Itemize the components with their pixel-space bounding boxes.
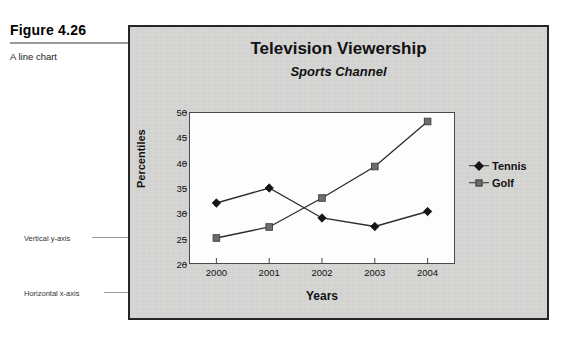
- chart-subtitle: Sports Channel: [130, 64, 547, 79]
- annotation-horizontal-x-axis: Horizontal x-axis: [24, 288, 79, 298]
- data-point-golf: [424, 118, 431, 125]
- x-tick-label: 2002: [311, 267, 332, 278]
- square-marker: [469, 177, 489, 189]
- x-tick-label: 2001: [259, 267, 280, 278]
- x-tick-label: 2004: [417, 267, 438, 278]
- y-axis-ticks: 20253035404550: [158, 112, 187, 264]
- y-tick-mark: [182, 264, 187, 265]
- plot-series-svg: [190, 113, 454, 263]
- x-axis-tick-labels: 20002001200220032004: [189, 267, 455, 283]
- x-axis-title: Years: [189, 289, 455, 303]
- data-point-tennis: [423, 207, 431, 215]
- data-point-tennis: [212, 199, 220, 207]
- legend-item-tennis[interactable]: Tennis: [469, 157, 541, 174]
- data-point-golf: [266, 224, 273, 231]
- chart-title: Television Viewership: [130, 39, 547, 59]
- legend-label: Golf: [492, 177, 514, 189]
- data-point-tennis: [265, 184, 273, 192]
- figure-label: Figure 4.26: [10, 22, 128, 42]
- plot-area: [189, 112, 455, 264]
- caption-divider: [10, 42, 128, 44]
- legend-label: Tennis: [492, 160, 527, 172]
- y-tick-mark: [182, 188, 187, 189]
- y-tick-mark: [182, 137, 187, 138]
- x-tick-label: 2003: [364, 267, 385, 278]
- y-tick-mark: [182, 213, 187, 214]
- figure-subcaption: A line chart: [10, 51, 128, 62]
- y-tick-mark: [182, 163, 187, 164]
- annotation-vertical-y-axis: Vertical y-axis: [24, 233, 70, 243]
- data-point-golf: [372, 163, 379, 170]
- legend-marker: [476, 179, 483, 186]
- data-point-golf: [319, 195, 326, 202]
- legend-marker: [474, 161, 484, 171]
- data-point-golf: [213, 235, 220, 242]
- y-tick-mark: [182, 239, 187, 240]
- data-point-tennis: [371, 222, 379, 230]
- x-tick-label: 2000: [206, 267, 227, 278]
- chart-legend: TennisGolf: [469, 157, 541, 191]
- legend-item-golf[interactable]: Golf: [469, 174, 541, 191]
- chart-panel: Television Viewership Sports Channel Per…: [128, 25, 549, 320]
- annotation-vertical-y-axis-label: Vertical y-axis: [24, 234, 70, 243]
- diamond-marker: [469, 160, 489, 172]
- annotation-horizontal-x-axis-label: Horizontal x-axis: [24, 289, 79, 298]
- y-tick-mark: [182, 112, 187, 113]
- y-axis-title: Percentiles: [135, 129, 147, 188]
- data-point-tennis: [318, 214, 326, 222]
- figure-caption: Figure 4.26 A line chart: [10, 22, 128, 62]
